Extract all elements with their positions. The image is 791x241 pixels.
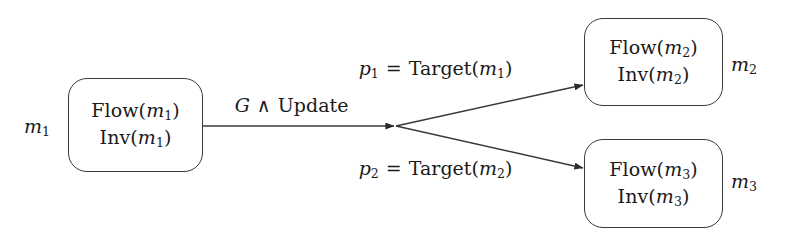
- edge-label-guard: G ∧ Update: [224, 94, 359, 116]
- edge-label-target2: p2 = Target(m2): [338, 157, 533, 181]
- node-m3-inv: Inv(m3): [618, 184, 690, 211]
- node-m2-inv: Inv(m2): [618, 62, 690, 89]
- node-m3-flow: Flow(m3): [609, 157, 698, 184]
- node-m2[interactable]: Flow(m2) Inv(m2): [584, 18, 723, 106]
- edge-target1-line: [396, 85, 583, 126]
- node-m1-flow: Flow(m1): [91, 98, 180, 125]
- node-label-m2: m2: [731, 53, 757, 77]
- node-label-m1: m1: [24, 115, 50, 139]
- edge-label-target1: p1 = Target(m1): [338, 57, 533, 81]
- node-m1[interactable]: Flow(m1) Inv(m1): [68, 78, 203, 172]
- node-m1-inv: Inv(m1): [100, 125, 172, 152]
- transition-diagram: m1 Flow(m1) Inv(m1) Flow(m2) Inv(m2) m2 …: [0, 0, 791, 241]
- node-m3[interactable]: Flow(m3) Inv(m3): [584, 139, 723, 228]
- node-label-m3: m3: [731, 170, 757, 194]
- node-m2-flow: Flow(m2): [609, 35, 698, 62]
